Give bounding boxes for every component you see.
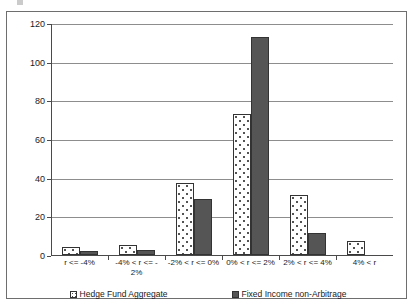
- gridline: [51, 63, 393, 64]
- bar: [347, 241, 365, 255]
- x-axis-labels: r <= -4%-4% < r <= -2%-2% < r <= 0%0% < …: [51, 258, 393, 288]
- bar-group: [347, 23, 383, 255]
- legend-swatch-hedge-fund-aggregate: [70, 291, 77, 298]
- bar-group: [290, 23, 326, 255]
- y-tick-label: 60: [35, 136, 45, 145]
- plot-inner: 020406080100120: [51, 24, 393, 256]
- y-tick-label: 20: [35, 213, 45, 222]
- y-axis-line: [51, 24, 52, 256]
- bar: [308, 233, 326, 255]
- bar-group: [176, 23, 212, 255]
- plot-area: 020406080100120: [51, 24, 393, 256]
- bar: [194, 199, 212, 255]
- gridline: [51, 140, 393, 141]
- y-tick-mark: [47, 24, 51, 25]
- bar: [119, 245, 137, 255]
- y-tick-mark: [47, 140, 51, 141]
- scan-artifact: [17, 0, 23, 5]
- x-tick-label-line: 2%: [100, 268, 173, 278]
- bar-group: [233, 23, 269, 255]
- y-tick-label: 40: [35, 174, 45, 183]
- y-tick-label: 120: [30, 20, 45, 29]
- legend-label-hedge-fund-aggregate: Hedge Fund Aggregate: [80, 290, 168, 299]
- chart-legend: Hedge Fund Aggregate Fixed Income non-Ar…: [23, 290, 393, 299]
- legend-swatch-fixed-income-non-arbitrage: [232, 291, 239, 298]
- y-tick-mark: [47, 217, 51, 218]
- y-tick-label: 100: [30, 58, 45, 67]
- legend-entry-fixed-income-non-arbitrage: Fixed Income non-Arbitrage: [232, 290, 347, 299]
- y-tick-mark: [47, 101, 51, 102]
- bar: [290, 195, 308, 255]
- bar: [62, 247, 80, 255]
- bar: [251, 37, 269, 255]
- y-tick-mark: [47, 256, 51, 257]
- bar: [176, 183, 194, 255]
- gridline: [51, 179, 393, 180]
- y-tick-mark: [47, 63, 51, 64]
- gridline: [51, 217, 393, 218]
- gridline: [51, 24, 393, 25]
- chart-frame: 020406080100120 r <= -4%-4% < r <= -2%-2…: [6, 11, 407, 299]
- x-tick-label: 4% < r: [328, 258, 401, 268]
- x-tick-label-line: 4% < r: [328, 258, 401, 268]
- bar-group: [119, 23, 155, 255]
- y-tick-mark: [47, 179, 51, 180]
- legend-label-fixed-income-non-arbitrage: Fixed Income non-Arbitrage: [242, 290, 347, 299]
- bar: [233, 114, 251, 255]
- bar-group: [62, 23, 98, 255]
- legend-entry-hedge-fund-aggregate: Hedge Fund Aggregate: [70, 290, 168, 299]
- y-tick-label: 80: [35, 97, 45, 106]
- gridline: [51, 101, 393, 102]
